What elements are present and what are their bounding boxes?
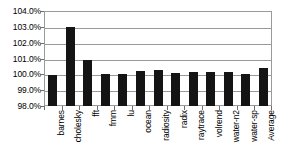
x-axis-category-labels: barnescholeskyfftfmmluoceanradiosityradi… [44, 110, 272, 158]
bar [241, 74, 250, 106]
bars-series [44, 11, 272, 106]
y-axis-tick-label: 98.0% [17, 102, 41, 111]
bar [154, 70, 163, 106]
bar [66, 27, 75, 106]
bar [48, 75, 57, 106]
x-axis-category-label: raytrace [197, 110, 206, 140]
bar [171, 73, 180, 106]
x-axis-category-label: Average [267, 110, 276, 141]
x-axis-category-label: volrend [215, 110, 224, 137]
bar [224, 72, 233, 106]
bar [189, 72, 198, 106]
x-axis-category-label: fft [92, 110, 101, 117]
x-axis-category-label: water-n2 [232, 110, 241, 142]
x-axis-category-label: fmm [109, 110, 118, 126]
bar [83, 60, 92, 106]
bar [259, 68, 268, 106]
bar [136, 71, 145, 106]
x-axis-category-label: radix [180, 110, 189, 128]
x-axis-category-label: water-sp [250, 110, 259, 142]
bar [118, 74, 127, 106]
x-axis-category-label: ocean [144, 110, 153, 133]
bar-chart: 98.0%99.0%100.0%101.0%102.0%103.0%104.0%… [0, 0, 281, 158]
y-axis-tick-label: 101.0% [13, 54, 41, 63]
y-axis-tick-label: 100.0% [13, 70, 41, 79]
y-axis-tick-label: 103.0% [13, 22, 41, 31]
y-axis-tick-label: 99.0% [17, 86, 41, 95]
x-axis-category-label: radiosity [162, 110, 171, 141]
x-axis-category-label: cholesky [74, 110, 83, 142]
y-axis-tick-labels: 98.0%99.0%100.0%101.0%102.0%103.0%104.0% [0, 0, 44, 158]
x-axis-category-label: barnes [57, 110, 66, 135]
x-axis-category-label: lu [127, 110, 136, 116]
y-axis-tick-label: 104.0% [13, 7, 41, 16]
bar [101, 74, 110, 106]
bar [206, 72, 215, 106]
y-axis-tick-label: 102.0% [13, 38, 41, 47]
